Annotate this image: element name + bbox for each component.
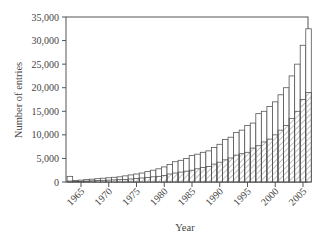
- x-tick-label: 1970: [92, 186, 114, 208]
- x-tick-label: 1980: [148, 186, 170, 208]
- bar-subset: [178, 172, 184, 182]
- bar-subset: [161, 175, 167, 182]
- bar-subset: [306, 92, 312, 182]
- bar-subset: [195, 169, 201, 182]
- bar-subset: [256, 146, 262, 182]
- x-tick-label: 1995: [231, 186, 253, 208]
- bar-subset: [278, 130, 284, 182]
- bar-chart: 05,00010,00015,00020,00025,00030,00035,0…: [0, 0, 329, 240]
- y-tick-label: 5,000: [37, 153, 60, 164]
- bar-subset: [167, 174, 173, 182]
- bar-subset: [245, 152, 251, 182]
- bar-subset: [261, 142, 267, 182]
- x-axis-title: Year: [175, 222, 195, 233]
- bar-subset: [284, 125, 290, 182]
- y-tick-label: 10,000: [32, 129, 60, 140]
- bar-subset: [228, 158, 234, 182]
- x-tick-label: 2005: [286, 186, 308, 208]
- bar-subset: [184, 171, 190, 182]
- bar-subset: [206, 166, 212, 182]
- y-tick-label: 15,000: [32, 106, 60, 117]
- bar-subset: [78, 181, 84, 182]
- bar-subset: [267, 139, 273, 182]
- y-tick-label: 0: [54, 177, 59, 188]
- x-tick-label: 1975: [120, 186, 142, 208]
- bar-subset: [112, 180, 118, 182]
- bar-subset: [234, 155, 240, 182]
- x-axis: 196519701975198019851990199520002005: [64, 182, 308, 208]
- bar-subset: [150, 177, 156, 182]
- bar-subset: [173, 173, 179, 182]
- bar-subset: [106, 180, 112, 182]
- y-axis: 05,00010,00015,00020,00025,00030,00035,0…: [32, 12, 67, 188]
- bar-subset: [189, 170, 195, 182]
- bar-subset: [123, 179, 129, 182]
- y-tick-label: 30,000: [32, 35, 60, 46]
- bar-subset: [272, 135, 278, 182]
- y-tick-label: 35,000: [32, 12, 60, 23]
- bar-subset: [67, 181, 73, 182]
- bar-subset: [200, 167, 206, 182]
- bar-subset: [117, 180, 123, 182]
- x-tick-label: 1985: [175, 186, 197, 208]
- y-tick-label: 25,000: [32, 59, 60, 70]
- bar-subset: [89, 181, 95, 182]
- bar-subset: [300, 100, 306, 183]
- bar-subset: [295, 111, 301, 182]
- bar-subset: [134, 178, 140, 182]
- bar-subset: [217, 162, 223, 182]
- bar-subset: [211, 164, 217, 182]
- bar-subset: [289, 118, 295, 182]
- x-tick-label: 1990: [203, 186, 225, 208]
- bar-subset: [100, 180, 106, 182]
- bar-subset: [156, 176, 162, 182]
- bar-subset: [239, 154, 245, 182]
- y-tick-label: 20,000: [32, 82, 60, 93]
- bar-subset: [250, 148, 256, 182]
- bar-subset: [223, 160, 229, 182]
- x-tick-label: 1965: [64, 186, 86, 208]
- bar-subset: [128, 179, 134, 182]
- y-axis-title: Number of entries: [13, 62, 24, 138]
- bar-subset: [139, 178, 145, 182]
- bar-subset: [84, 181, 90, 182]
- x-tick-label: 2000: [259, 186, 281, 208]
- bar-subset: [145, 178, 151, 182]
- bar-subset: [95, 181, 101, 182]
